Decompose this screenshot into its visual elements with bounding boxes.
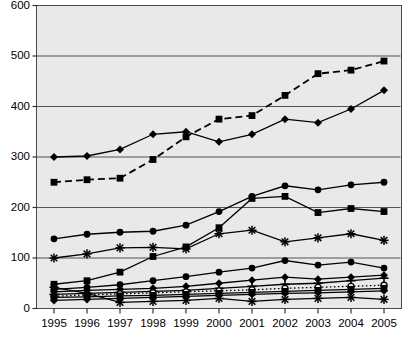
data-point-marker <box>216 269 223 276</box>
data-point-marker <box>150 277 157 284</box>
data-point-marker <box>150 156 157 163</box>
y-tick-label: 600 <box>0 0 30 11</box>
y-tick-label: 200 <box>0 202 30 214</box>
data-point-marker <box>149 130 157 138</box>
data-point-marker <box>183 273 190 280</box>
data-point-marker <box>150 228 157 235</box>
data-point-marker <box>282 92 289 99</box>
data-point-marker <box>249 195 256 202</box>
data-point-marker <box>117 269 124 276</box>
data-point-marker <box>315 186 322 193</box>
chart-canvas <box>0 0 418 342</box>
data-point-marker <box>282 257 289 264</box>
data-point-marker <box>315 262 322 269</box>
y-tick-label: 400 <box>0 101 30 113</box>
x-tick-label: 2005 <box>362 318 406 330</box>
data-point-marker <box>215 138 223 146</box>
y-tick-label: 300 <box>0 151 30 163</box>
series-line <box>49 226 388 263</box>
series-line <box>50 86 388 161</box>
data-point-marker <box>116 145 124 153</box>
data-point-marker <box>216 116 223 123</box>
data-point-marker <box>117 229 124 236</box>
data-point-marker <box>381 208 388 215</box>
data-point-marker <box>249 265 256 272</box>
data-point-marker <box>50 153 58 161</box>
data-point-marker <box>84 277 91 284</box>
y-tick-label: 500 <box>0 50 30 62</box>
data-point-marker <box>282 193 289 200</box>
line-chart: 0100200300400500600 19951996199719981999… <box>0 0 418 342</box>
data-point-marker <box>51 179 58 186</box>
data-point-marker <box>348 67 355 74</box>
data-point-marker <box>380 86 388 94</box>
axis-ticks <box>33 6 385 314</box>
data-point-marker <box>381 58 388 65</box>
data-point-marker <box>150 253 157 260</box>
data-point-marker <box>314 119 322 127</box>
series-line <box>51 58 388 186</box>
data-point-marker <box>381 179 388 186</box>
data-point-marker <box>282 182 289 189</box>
y-tick-label: 100 <box>0 252 30 264</box>
data-point-marker <box>84 231 91 238</box>
data-point-marker <box>315 70 322 77</box>
data-point-marker <box>83 152 91 160</box>
data-point-marker <box>348 205 355 212</box>
data-point-marker <box>51 235 58 242</box>
data-series <box>49 58 388 307</box>
data-point-marker <box>117 175 124 182</box>
data-point-marker <box>348 181 355 188</box>
data-point-marker <box>84 176 91 183</box>
data-point-marker <box>249 112 256 119</box>
series-path <box>54 90 384 157</box>
data-point-marker <box>248 130 256 138</box>
data-point-marker <box>216 208 223 215</box>
data-point-marker <box>381 265 388 272</box>
y-tick-label: 0 <box>0 303 30 315</box>
data-point-marker <box>348 259 355 266</box>
data-point-marker <box>183 222 190 229</box>
data-point-marker <box>315 209 322 216</box>
data-point-marker <box>281 115 289 123</box>
